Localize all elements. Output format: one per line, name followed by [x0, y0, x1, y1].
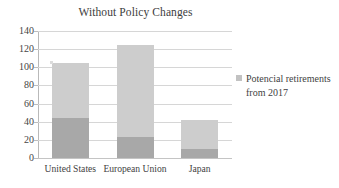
x-label-japan: Japan — [167, 163, 232, 175]
y-tick-mark-0 — [34, 158, 38, 159]
bar-group[interactable] — [52, 31, 89, 158]
bars-layer — [38, 31, 232, 158]
chart-container: Without Policy Changes 14012010080604020… — [0, 0, 339, 188]
y-tick-label-100: 100 — [4, 62, 34, 72]
bar-segment-upper[interactable] — [117, 45, 154, 138]
x-axis-category-labels: United StatesEuropean UnionJapan — [38, 163, 232, 179]
bar-segment-upper[interactable] — [181, 120, 218, 149]
y-tick-label-140: 140 — [4, 26, 34, 36]
x-label-european-union: European Union — [103, 163, 168, 175]
bar-segment-lower[interactable] — [181, 149, 218, 158]
y-tick-label-40: 40 — [4, 117, 34, 127]
bar-group[interactable] — [117, 31, 154, 158]
bar-group[interactable] — [181, 31, 218, 158]
bar-segment-lower[interactable] — [52, 118, 89, 158]
bar-segment-upper[interactable] — [52, 63, 89, 118]
y-tick-label-80: 80 — [4, 80, 34, 90]
chart-title: Without Policy Changes — [38, 6, 233, 18]
x-label-united-states: United States — [38, 163, 103, 175]
y-axis-tick-labels: 140120100806040200 — [0, 31, 34, 159]
bar-segment-lower[interactable] — [117, 137, 154, 158]
y-tick-label-60: 60 — [4, 99, 34, 109]
y-tick-label-0: 0 — [4, 153, 34, 163]
legend-label: Potencial retirements from 2017 — [246, 72, 336, 99]
legend-swatch-icon — [236, 75, 242, 81]
y-tick-label-120: 120 — [4, 44, 34, 54]
scan-artifact-mark — [50, 61, 53, 64]
y-tick-label-20: 20 — [4, 135, 34, 145]
gridline-0 — [38, 158, 232, 159]
